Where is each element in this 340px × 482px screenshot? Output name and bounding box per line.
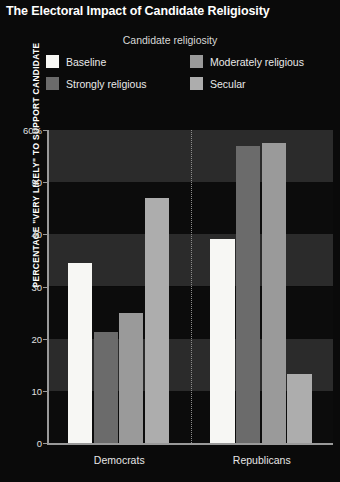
bar[interactable] <box>236 146 260 443</box>
bar[interactable] <box>287 374 311 443</box>
bar[interactable] <box>94 332 118 443</box>
y-tick-label: 60% <box>23 125 42 136</box>
x-tick-label: Republicans <box>233 454 291 466</box>
x-tick-label: Democrats <box>94 454 145 466</box>
y-tick-label: 50 <box>31 177 42 188</box>
bars-panel <box>48 130 333 443</box>
group-divider <box>191 130 192 443</box>
chart-root: The Electoral Impact of Candidate Religi… <box>0 0 340 482</box>
bar[interactable] <box>262 143 286 443</box>
y-axis-ticks: 60%50403020100 <box>0 0 42 482</box>
bar[interactable] <box>210 239 234 443</box>
y-tick-label: 30 <box>31 281 42 292</box>
y-tick-label: 0 <box>37 438 42 449</box>
bar[interactable] <box>119 313 143 443</box>
y-tick-label: 20 <box>31 333 42 344</box>
plot-area: PERCENTAGE "VERY LIKELY" TO SUPPORT CAND… <box>0 0 340 482</box>
y-axis-line <box>47 130 49 443</box>
bar[interactable] <box>145 198 169 443</box>
y-tick-label: 10 <box>31 385 42 396</box>
x-axis-line <box>47 443 333 445</box>
bar[interactable] <box>68 263 92 443</box>
y-tick-label: 40 <box>31 229 42 240</box>
